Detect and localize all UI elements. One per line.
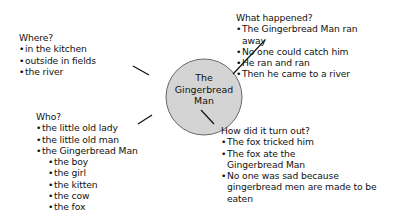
list-item: the little old man [36,134,138,145]
connector-who [138,115,152,124]
sub-list-item: the girl [48,167,138,178]
who-node: Who? the little old lady the little old … [36,111,138,213]
list-item: The fox tricked him [221,136,386,147]
who-list: the little old lady the little old man t… [36,122,138,212]
sub-list-item: the cow [48,190,138,201]
list-item: Then he came to a river [236,68,396,79]
outcome-heading: How did it turn out? [221,125,386,136]
outcome-node: How did it turn out? The fox tricked him… [221,125,386,204]
sub-list-item: the kitten [48,179,138,190]
sub-list-item: the fox [48,201,138,212]
where-list: in the kitchen outside in fields the riv… [19,43,96,77]
list-item: No one was sad because gingerbread men a… [221,170,377,204]
list-item: the river [19,66,96,77]
where-node: Where? in the kitchen outside in fields … [19,32,96,77]
list-item: the little old lady [36,122,138,133]
center-topic: The Gingerbread Man [166,72,242,107]
sub-list-item: the boy [48,156,138,167]
center-label-line: The [166,72,242,84]
center-label-line: Man [166,95,242,107]
list-item: The Gingerbread Man ran away [236,23,362,46]
list-item: He ran and ran [236,57,396,68]
who-heading: Who? [36,111,138,122]
where-heading: Where? [19,32,96,43]
list-item: outside in fields [19,55,96,66]
connector-where [133,66,149,75]
list-item: No one could catch him [236,46,396,57]
what-happened-heading: What happened? [236,12,396,23]
what-happened-node: What happened? The Gingerbread Man ran a… [236,12,396,80]
outcome-list: The fox tricked him The fox ate the Ging… [221,136,386,204]
list-item: in the kitchen [19,43,96,54]
list-item: the Gingerbread Man [36,145,138,156]
list-item: The fox ate the Gingerbread Man [221,148,322,171]
center-label-line: Gingerbread [166,84,242,96]
what-happened-list: The Gingerbread Man ran away No one coul… [236,23,396,79]
